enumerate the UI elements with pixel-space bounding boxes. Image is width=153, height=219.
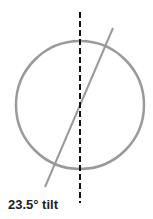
diagram-canvas bbox=[0, 0, 153, 219]
axial-tilt-diagram: 23.5° tilt bbox=[0, 0, 153, 219]
tilt-label: 23.5° tilt bbox=[8, 197, 58, 212]
